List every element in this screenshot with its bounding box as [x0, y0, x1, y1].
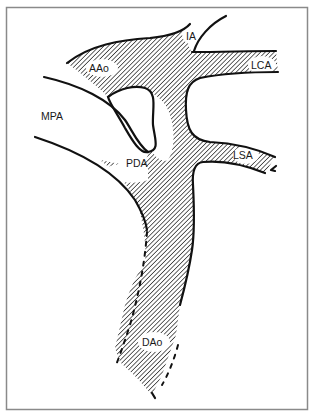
label-aao: AAo — [89, 62, 109, 74]
label-ia: IA — [186, 30, 196, 42]
label-mpa: MPA — [41, 110, 63, 122]
label-lsa: LSA — [233, 149, 253, 161]
label-dao: DAo — [142, 336, 163, 348]
aortic-arch-diagram: IA AAo LCA MPA LSA PDA DAo — [0, 0, 314, 417]
arch-right-void — [189, 72, 300, 140]
label-pda: PDA — [126, 157, 148, 169]
label-lca: LCA — [251, 59, 271, 71]
